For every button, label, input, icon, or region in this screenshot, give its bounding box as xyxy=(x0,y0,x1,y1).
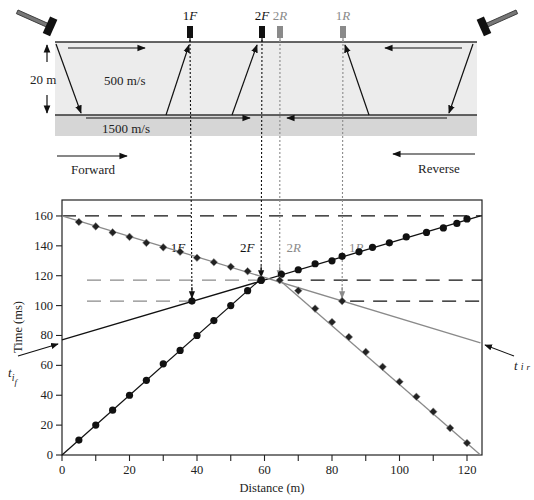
geophone-label: 2R xyxy=(273,8,288,23)
data-point xyxy=(210,258,218,266)
upper-velocity-label: 500 m/s xyxy=(104,73,146,88)
geophone-label: 2F xyxy=(255,8,271,23)
data-point xyxy=(227,302,234,309)
data-point xyxy=(188,298,195,305)
data-point xyxy=(311,305,319,313)
y-tick-label: 20 xyxy=(41,418,54,432)
x-tick-label: 60 xyxy=(258,463,271,477)
geophone-icon xyxy=(277,26,283,38)
cross-section: 20 m 500 m/s 1500 m/s Forward Reverse 1F… xyxy=(14,4,521,177)
geophones: 1F2F2R1R xyxy=(183,8,351,42)
y-tick-label: 60 xyxy=(41,358,54,372)
data-point xyxy=(143,377,150,384)
y-tick-label: 140 xyxy=(34,239,53,253)
x-tick-label: 100 xyxy=(390,463,409,477)
data-point xyxy=(244,267,252,275)
reverse-label: Reverse xyxy=(418,161,460,176)
plot-frame xyxy=(62,200,482,455)
data-point xyxy=(403,233,410,240)
chart-geophone-label: 2R xyxy=(286,240,301,255)
geophone-icon xyxy=(340,26,346,38)
geophone-label: 1F xyxy=(183,8,199,23)
data-point xyxy=(339,253,346,260)
x-tick-label: 120 xyxy=(458,463,477,477)
geophone-icon xyxy=(259,26,265,38)
data-point xyxy=(92,422,99,429)
y-tick-label: 0 xyxy=(47,448,53,462)
data-point xyxy=(109,229,117,237)
data-point xyxy=(413,393,421,401)
data-point xyxy=(210,317,217,324)
hammer-icon xyxy=(477,4,521,37)
data-point xyxy=(109,407,116,414)
forward-intercept-label: tif xyxy=(8,365,18,387)
data-point xyxy=(177,347,184,354)
data-point xyxy=(369,244,376,251)
y-tick-label: 40 xyxy=(41,388,54,402)
reverse-intercept-arrow xyxy=(485,345,514,356)
data-point xyxy=(193,332,200,339)
data-point xyxy=(463,215,470,222)
hammer-icon xyxy=(14,4,58,37)
data-point xyxy=(440,224,447,231)
data-point xyxy=(126,233,134,241)
data-point xyxy=(379,363,387,371)
data-point xyxy=(295,266,302,273)
lower-velocity-label: 1500 m/s xyxy=(102,121,150,136)
data-point xyxy=(75,218,83,226)
data-point xyxy=(244,287,251,294)
data-point xyxy=(386,239,393,246)
data-point xyxy=(160,360,167,367)
reverse-intercept-label: tir xyxy=(514,358,530,373)
data-point xyxy=(312,260,319,267)
layer-thickness-label: 20 m xyxy=(30,72,56,87)
y-tick-label: 80 xyxy=(41,328,54,342)
data-point xyxy=(453,220,460,227)
data-point xyxy=(345,333,353,341)
series-lines xyxy=(62,216,481,455)
data-point xyxy=(227,263,235,271)
geophone-label: 1R xyxy=(336,8,351,23)
x-tick-label: 0 xyxy=(59,463,65,477)
data-point xyxy=(126,392,133,399)
data-point xyxy=(338,297,346,305)
data-point xyxy=(355,248,362,255)
series-points xyxy=(75,215,471,447)
reference-lines xyxy=(62,216,482,301)
data-point xyxy=(396,378,404,386)
data-point xyxy=(362,348,370,356)
x-tick-label: 80 xyxy=(326,463,339,477)
x-axis-label: Distance (m) xyxy=(240,481,305,495)
data-point xyxy=(328,257,335,264)
data-point xyxy=(193,254,201,262)
reverse-intercept-annotation: tir xyxy=(485,345,530,373)
forward-label: Forward xyxy=(71,162,116,177)
y-axis-label: Time (ms) xyxy=(11,301,25,353)
data-point xyxy=(92,223,100,231)
geophone-icon xyxy=(187,26,193,38)
seismic-refraction-figure: 20 m 500 m/s 1500 m/s Forward Reverse 1F… xyxy=(0,0,534,500)
axes: 020406080100120020406080100120140160 xyxy=(34,209,476,477)
x-tick-label: 20 xyxy=(123,463,136,477)
x-tick-label: 40 xyxy=(191,463,204,477)
data-point xyxy=(423,229,430,236)
y-tick-label: 160 xyxy=(34,209,53,223)
data-point xyxy=(258,277,265,284)
data-point xyxy=(328,318,336,326)
data-point xyxy=(429,408,437,416)
data-point xyxy=(159,244,167,252)
y-tick-label: 100 xyxy=(34,299,53,313)
chart-geophone-label: 2F xyxy=(240,240,256,255)
y-tick-label: 120 xyxy=(34,269,53,283)
data-point xyxy=(278,271,285,278)
data-point xyxy=(75,436,82,443)
